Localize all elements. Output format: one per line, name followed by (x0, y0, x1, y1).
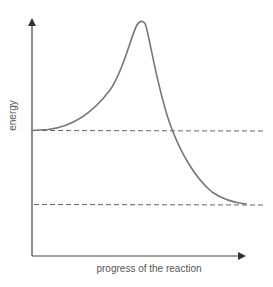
energy-profile-svg (0, 0, 273, 287)
x-axis-label: progress of the reaction (60, 263, 238, 274)
reactants-energy-level-line (34, 131, 264, 132)
energy-curve (32, 21, 246, 204)
y-axis-label: energy (7, 96, 18, 136)
products-energy-level-line (34, 205, 264, 206)
energy-profile-diagram: energy progress of the reaction (0, 0, 273, 287)
